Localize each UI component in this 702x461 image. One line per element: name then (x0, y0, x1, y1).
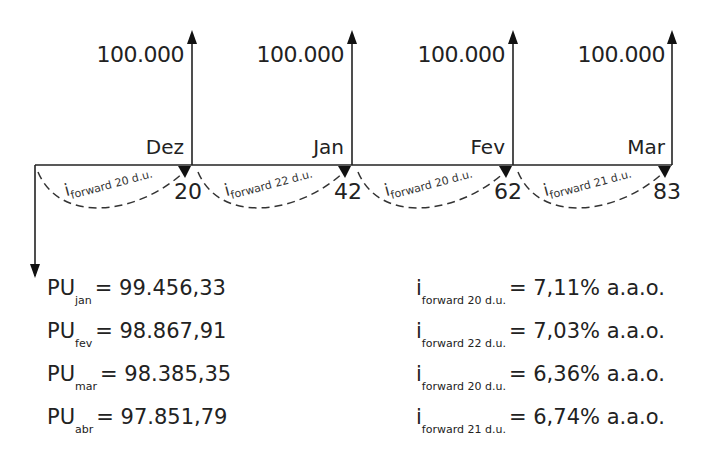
day-count: 42 (334, 179, 362, 204)
day-count: 20 (174, 179, 202, 204)
cash-flow-amount: 100.000 (555, 42, 665, 67)
forward-rate-equation: iforward 22 d.u.= 7,03% a.a.o. (416, 319, 665, 343)
day-count: 83 (653, 179, 681, 204)
pu-equation: PUfev= 98.867,91 (47, 319, 226, 343)
day-count: 62 (494, 179, 522, 204)
cash-flow-amount: 100.000 (74, 42, 184, 67)
month-label: Jan (284, 135, 344, 159)
forward-rate-equation: iforward 20 d.u.= 7,11% a.a.o. (416, 276, 665, 300)
month-label: Dez (124, 135, 184, 159)
month-label: Mar (605, 135, 665, 159)
cash-flow-amount: 100.000 (395, 42, 505, 67)
forward-rate-equation: iforward 21 d.u.= 6,74% a.a.o. (416, 405, 665, 429)
forward-rate-equation: iforward 20 d.u.= 6,36% a.a.o. (416, 362, 665, 386)
month-label: Fev (445, 135, 505, 159)
cash-flow-diagram (0, 0, 702, 461)
cash-flow-amount: 100.000 (234, 42, 344, 67)
pu-equation: PUmar= 98.385,35 (47, 362, 231, 386)
pu-equation: PUabr= 97.851,79 (47, 405, 227, 429)
pu-equation: PUjan= 99.456,33 (47, 276, 226, 300)
